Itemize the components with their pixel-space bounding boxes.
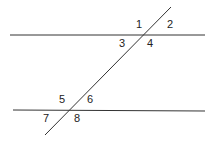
angle-label-8: 8	[74, 112, 80, 124]
angle-label-7: 7	[43, 112, 49, 124]
angle-label-1: 1	[136, 18, 142, 30]
transversal-line	[45, 7, 171, 135]
bottom-parallel-line	[13, 110, 205, 111]
angle-diagram: 1 2 3 4 5 6 7 8	[0, 0, 214, 145]
angle-label-2: 2	[167, 18, 173, 30]
angle-label-5: 5	[59, 93, 65, 105]
angle-label-6: 6	[87, 93, 93, 105]
angle-label-4: 4	[147, 37, 153, 49]
angle-label-3: 3	[119, 37, 125, 49]
